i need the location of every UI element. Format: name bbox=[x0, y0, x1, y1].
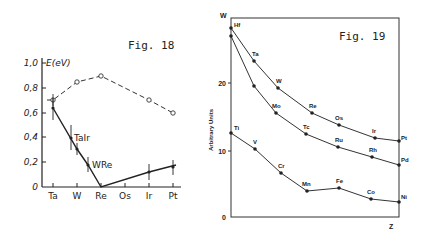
x-tick-label: W bbox=[73, 191, 82, 201]
tair-label: TaIr bbox=[73, 133, 90, 143]
plot-frame bbox=[231, 18, 399, 217]
y-tick-label: 0,4 bbox=[24, 132, 39, 142]
point-label: Ru bbox=[335, 137, 343, 143]
point-label: Os bbox=[335, 115, 344, 121]
x-tick-label: Ta bbox=[47, 191, 58, 201]
y-axis-label: Arbitrary Units bbox=[208, 108, 214, 151]
point-label: Fe bbox=[336, 178, 344, 184]
fig-18-title: Fig. 18 bbox=[128, 39, 174, 52]
dashed-series-line bbox=[47, 76, 173, 113]
point-label: Rh bbox=[369, 147, 377, 153]
y-tick-label: 20 bbox=[218, 80, 226, 87]
point-label: Ti bbox=[234, 125, 240, 131]
dashed-series-markers bbox=[51, 74, 175, 115]
wre-label: WRe bbox=[92, 160, 113, 170]
fig-19: Fig. 19 W Arbitrary Units Z 20 10 0 Hf T… bbox=[208, 12, 409, 230]
y-tick-label: 0 bbox=[32, 182, 38, 192]
point-label: Mn bbox=[302, 181, 311, 187]
point-label: Ni bbox=[401, 194, 407, 200]
point-label: Pt bbox=[401, 135, 407, 141]
y-axis-top-label: W bbox=[220, 12, 227, 19]
x-tick-label: Re bbox=[95, 191, 107, 201]
point-label: Hf bbox=[234, 22, 241, 28]
solid-series-markers bbox=[51, 106, 174, 173]
y-tick-label: 1,0 bbox=[24, 58, 39, 68]
fig-19-title: Fig. 19 bbox=[339, 30, 385, 43]
x-tick-label: Ir bbox=[146, 191, 153, 201]
point-label: Pd bbox=[401, 157, 409, 163]
point-label: Ta bbox=[252, 51, 259, 57]
point-label: Tc bbox=[303, 124, 310, 130]
x-axis-label: Z bbox=[389, 223, 394, 230]
y-tick-label: 0,2 bbox=[24, 157, 39, 167]
y-tick-label: 0,6 bbox=[24, 108, 39, 118]
x-tick-label: Pt bbox=[169, 191, 178, 201]
point-label: W bbox=[276, 78, 282, 84]
y-tick-label: 0,8 bbox=[24, 83, 39, 93]
point-label: Mo bbox=[272, 103, 281, 109]
point-label: Cr bbox=[278, 163, 285, 169]
point-label: Co bbox=[367, 189, 375, 195]
y-tick-label: 0 bbox=[222, 214, 226, 221]
point-label: Re bbox=[309, 103, 317, 109]
figure-canvas: Fig. 18 E(eV) 1,0 0,8 0,6 0,4 0,2 0 Ta bbox=[0, 0, 427, 237]
x-tick-label: Os bbox=[119, 191, 131, 201]
series-5d-line bbox=[231, 28, 399, 141]
tair-marker bbox=[69, 136, 72, 139]
y-axis-label: E(eV) bbox=[46, 58, 70, 68]
fig-18: Fig. 18 E(eV) 1,0 0,8 0,6 0,4 0,2 0 Ta bbox=[24, 39, 181, 201]
y-tick-label: 10 bbox=[218, 148, 226, 155]
point-label: V bbox=[253, 139, 257, 145]
point-label: Ir bbox=[372, 128, 377, 134]
